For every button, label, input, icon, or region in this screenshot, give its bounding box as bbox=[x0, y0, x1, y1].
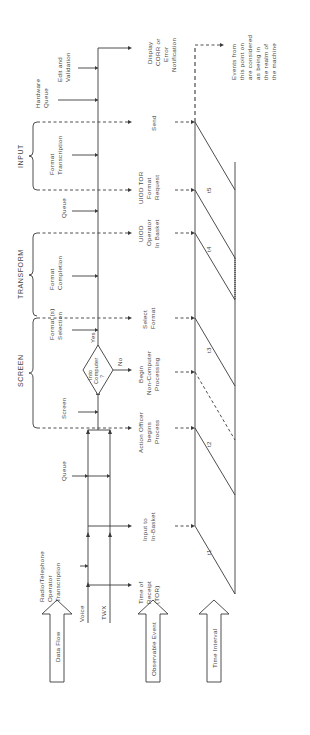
event-in-basket-line1: Input to bbox=[141, 518, 148, 541]
decision-yes-label: Yes bbox=[89, 332, 96, 343]
event-non-computer-line2: Non-Computer bbox=[145, 351, 152, 395]
svg-text:Action Officer begins: Action Officer begins Process bbox=[137, 410, 160, 453]
event-uiod-operator-line2: Operator bbox=[145, 219, 152, 246]
svg-text:Edit and Validation: Edit and Validation bbox=[56, 52, 71, 82]
event-uiod-tor-line3: Request bbox=[153, 175, 160, 200]
svg-text:Format Completion: Format Completion bbox=[48, 255, 63, 290]
interval-t3: t3 bbox=[205, 347, 212, 353]
event-tor-line1: Time of bbox=[137, 582, 144, 605]
step-screen: Screen bbox=[60, 397, 67, 419]
svg-text:Select Format: Select Format bbox=[141, 308, 156, 329]
time-interval-strip: t1 t2 t3 t4 t5 bbox=[195, 43, 235, 594]
svg-text:Input to In-Basket: Input to In-Basket bbox=[141, 512, 156, 541]
step-hardware-queue-line2: Queue bbox=[42, 88, 49, 108]
svg-text:Format (s) Selection: Format (s) Selection bbox=[48, 306, 63, 340]
step-queue-1: Queue bbox=[60, 461, 67, 481]
event-in-basket-line2: In-Basket bbox=[149, 512, 156, 541]
step-format-completion-line1: Format bbox=[48, 269, 55, 290]
interval-t2: t2 bbox=[205, 441, 212, 447]
input-lines: Voice TWX bbox=[78, 429, 132, 623]
svg-text:Radio/Telephone Operator: Radio/Telephone Operator Transcription bbox=[38, 549, 61, 602]
row-arrow-observable-event: Observable Event bbox=[138, 600, 168, 682]
decision-line3: ? bbox=[99, 375, 105, 378]
event-action-officer-line1: Action Officer bbox=[137, 412, 144, 453]
interval-t4: t4 bbox=[205, 246, 212, 252]
input-twx-label: TWX bbox=[100, 605, 107, 620]
row-arrow-data-flow: Data Flow bbox=[42, 600, 72, 682]
step-format-selection-line1: Format (s) bbox=[48, 308, 55, 340]
svg-text:Time of Receipt (T: Time of Receipt (TOR) bbox=[137, 579, 160, 604]
decision-no-label: No bbox=[116, 357, 123, 366]
svg-text:Format Transcription: Format Transcription bbox=[48, 135, 63, 175]
event-action-officer-line2: begins bbox=[145, 422, 152, 442]
section-transform-label: TRANSFORM bbox=[17, 249, 24, 299]
time-event-ticks bbox=[175, 120, 195, 528]
event-non-computer-line3: Processing bbox=[153, 357, 160, 391]
step-radio-line3: Transcription bbox=[54, 562, 61, 602]
event-display-line1: Display bbox=[146, 41, 153, 64]
step-format-completion-line2: Completion bbox=[56, 255, 63, 290]
svg-text:Events from this point o: Events from this point on are considered… bbox=[230, 33, 277, 80]
step-format-transcription-line2: Transcription bbox=[56, 135, 63, 175]
event-uiod-tor-line2: Format bbox=[145, 178, 152, 199]
data-flow-steps: Radio/Telephone Operator Transcription Q… bbox=[34, 52, 110, 602]
interval-t1: t1 bbox=[205, 549, 212, 555]
event-select-format-line2: Format bbox=[149, 308, 156, 329]
decision-into-computer: Into Computer ? Yes No bbox=[83, 332, 132, 395]
section-input-label: INPUT bbox=[17, 144, 24, 168]
event-send: Send bbox=[150, 115, 157, 131]
svg-text:UIOD TOR Format Re: UIOD TOR Format Request bbox=[137, 170, 160, 204]
row-arrow-time-interval: Time Interval bbox=[199, 600, 229, 682]
svg-text:Begin Non-Computer: Begin Non-Computer Processing bbox=[137, 349, 160, 395]
event-select-format-line1: Select bbox=[141, 310, 148, 329]
svg-text:UIOD Operator In B: UIOD Operator In Basket bbox=[137, 217, 160, 248]
interval-t5: t5 bbox=[205, 187, 212, 193]
event-uiod-tor-line1: UIOD TOR bbox=[137, 171, 144, 204]
row-label-observable-event: Observable Event bbox=[150, 622, 157, 676]
input-voice-label: Voice bbox=[78, 605, 85, 622]
note-line3: are considered bbox=[246, 35, 253, 80]
event-display-line4: Notification bbox=[170, 38, 177, 72]
step-format-transcription-line1: Format bbox=[48, 154, 55, 175]
step-format-selection-line2: Selection bbox=[56, 312, 63, 340]
step-radio-line2: Operator bbox=[46, 575, 53, 602]
event-non-computer-line1: Begin bbox=[137, 365, 144, 383]
row-label-data-flow: Data Flow bbox=[54, 631, 61, 662]
step-edit-validation-line1: Edit and bbox=[56, 57, 63, 82]
event-uiod-operator-line3: In Basket bbox=[153, 220, 160, 249]
step-edit-validation-line2: Validation bbox=[64, 52, 71, 82]
section-screen-label: SCREEN bbox=[17, 354, 24, 387]
event-display-line3: Error bbox=[162, 47, 169, 62]
event-display-line2: CORR or bbox=[154, 38, 161, 66]
step-hardware-queue-line1: Hardware bbox=[34, 79, 41, 108]
decision-line2: Computer bbox=[93, 357, 99, 384]
note-line2: this point on bbox=[238, 42, 245, 80]
svg-text:Display CORR or Er: Display CORR or Error Notification bbox=[146, 36, 177, 72]
note-line4: as being in bbox=[254, 47, 261, 80]
step-queue-2: Queue bbox=[60, 198, 67, 218]
data-flow-timeline-diagram: Data Flow Observable Event Time Interval… bbox=[0, 0, 310, 735]
note-line1: Events from bbox=[230, 44, 237, 80]
machine-realm-note: Events from this point on are considered… bbox=[230, 33, 277, 80]
event-tor-line3: (TOR) bbox=[153, 585, 160, 604]
event-uiod-operator-line1: UIOD bbox=[137, 225, 144, 242]
step-radio-line1: Radio/Telephone bbox=[38, 551, 45, 602]
observable-event-labels: Time of Receipt (TOR) Input to In-Basket… bbox=[137, 36, 177, 604]
row-label-time-interval: Time Interval bbox=[211, 629, 218, 668]
section-brackets: SCREEN TRANSFORM INPUT bbox=[17, 122, 128, 428]
svg-text:Hardware Queue: Hardware Queue bbox=[34, 77, 49, 108]
note-line5: the realm of bbox=[262, 44, 269, 80]
event-action-officer-line3: Process bbox=[153, 420, 160, 444]
event-tor-line2: Receipt bbox=[145, 581, 152, 604]
note-line6: the machine bbox=[270, 43, 277, 80]
